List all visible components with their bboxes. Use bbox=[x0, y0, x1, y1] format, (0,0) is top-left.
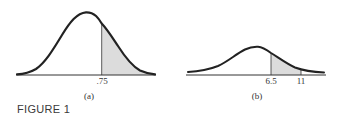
panel-a-density-curve bbox=[17, 12, 155, 74]
figure-graphics bbox=[0, 0, 338, 117]
panel-a-label: (a) bbox=[84, 92, 94, 101]
panel-b-label: (b) bbox=[252, 92, 263, 101]
figure-caption: FIGURE 1 bbox=[17, 104, 70, 115]
panel-a-shaded-tail bbox=[102, 24, 155, 76]
figure-1: .75 (a) 6.5 11 (b) FIGURE 1 bbox=[0, 0, 338, 117]
panel-a-tick-label: .75 bbox=[96, 77, 107, 86]
panel-b-tick-label-6-5: 6.5 bbox=[265, 77, 276, 86]
panel-b-plot bbox=[186, 47, 326, 75]
panel-b-tick-label-11: 11 bbox=[297, 77, 306, 86]
panel-b-density-curve bbox=[188, 47, 324, 73]
panel-a-plot bbox=[16, 12, 156, 75]
